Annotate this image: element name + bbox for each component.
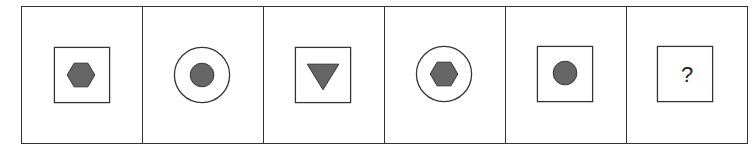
circle-frame-hexagon-icon: [385, 7, 505, 143]
cell-5: [506, 7, 627, 143]
question-mark: ?: [681, 62, 693, 88]
square-frame-triangle-icon: [264, 7, 384, 143]
square-frame-hexagon-icon: [22, 7, 142, 143]
cell-4: [385, 7, 506, 143]
cell-3: [264, 7, 385, 143]
puzzle-sequence: ?: [21, 6, 748, 144]
circle-frame-circle-icon: [143, 7, 263, 143]
cell-1: [22, 7, 143, 143]
cell-2: [143, 7, 264, 143]
cell-6: ?: [627, 7, 747, 143]
square-frame-circle-icon: [506, 7, 626, 143]
